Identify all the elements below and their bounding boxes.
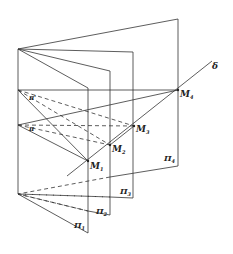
label-m1: M1: [89, 161, 103, 172]
point-m2: [109, 144, 111, 146]
label-plane-4: Π4: [163, 153, 176, 164]
label-m2: M2: [111, 144, 126, 155]
label-m4: M4: [179, 89, 194, 100]
plane-pi1: [18, 49, 88, 233]
point-m3: [133, 125, 135, 127]
label-pi-prime: π': [28, 93, 36, 102]
point-m1: [87, 160, 89, 162]
label-plane-3: Π3: [119, 186, 132, 197]
point-m4: [177, 89, 179, 91]
label-plane-1: Π1: [73, 220, 85, 231]
segment-m2-m3: [110, 126, 134, 145]
label-delta: δ: [211, 61, 218, 71]
line-delta: [67, 61, 212, 176]
label-plane-2: Π2: [95, 206, 108, 217]
label-m3: M3: [135, 124, 150, 135]
label-pi: π: [28, 124, 35, 133]
horizontal-line-middle: [18, 125, 134, 126]
plane-pi3: [18, 49, 133, 198]
diagram-canvas: M1 M2 M3 M4 δ π' π Π1 Π2 Π3 Π4: [0, 0, 233, 254]
